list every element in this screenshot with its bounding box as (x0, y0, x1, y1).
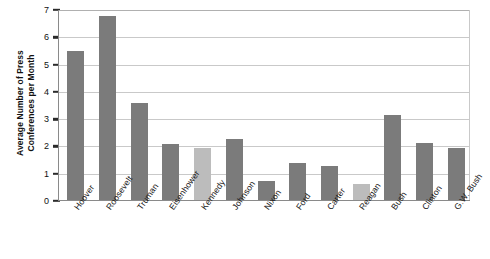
y-tick-label: 4 (0, 87, 58, 97)
press-conferences-bar-chart: Average Number of Press Conferences per … (0, 0, 490, 259)
bar-roosevelt (99, 16, 116, 200)
y-tick-label: 0 (0, 196, 58, 206)
gridline (59, 92, 470, 93)
y-tick-label: 1 (0, 169, 58, 179)
bar-truman (131, 103, 148, 200)
gridline (59, 37, 470, 38)
y-tick-label: 3 (0, 114, 58, 124)
gridline (59, 119, 470, 120)
gridline (59, 65, 470, 66)
gridline (59, 174, 470, 175)
y-tick-label: 7 (0, 5, 58, 15)
y-tick-label: 2 (0, 141, 58, 151)
bar-hoover (67, 51, 84, 200)
plot-right-rule (469, 10, 470, 200)
gridline (59, 146, 470, 147)
plot-top-rule (59, 10, 470, 11)
y-tick-label: 5 (0, 60, 58, 70)
bar-bush (384, 115, 401, 200)
y-tick-label: 6 (0, 32, 58, 42)
plot-area (58, 10, 470, 201)
